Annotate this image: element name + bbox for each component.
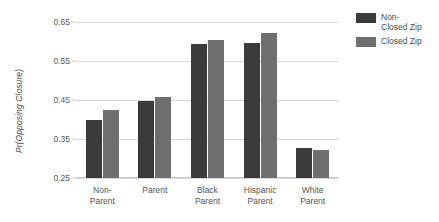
y-tick-label: 0.25 [53, 173, 70, 183]
y-tick-mark [72, 61, 76, 62]
legend-label: Closed Zip [381, 36, 422, 46]
bar [208, 40, 224, 178]
bar [138, 101, 154, 178]
bar [261, 33, 277, 178]
x-tick-label: Non- Parent [76, 185, 129, 207]
gridline [76, 178, 339, 179]
y-tick-mark [72, 22, 76, 23]
legend-item[interactable]: Non- Closed Zip [356, 12, 436, 32]
bar-group [191, 22, 224, 178]
y-tick-mark [72, 139, 76, 140]
plot-area: 0.250.350.450.550.65 Non- ParentParentBl… [76, 22, 339, 178]
chart-legend: Non- Closed ZipClosed Zip [356, 12, 436, 51]
y-tick-label: 0.35 [53, 134, 70, 144]
bar-chart-figure: Pr(Opposing Closure) 0.250.350.450.550.6… [0, 0, 439, 222]
bar-group [86, 22, 119, 178]
bar [244, 43, 260, 178]
legend-swatch-icon [356, 37, 376, 47]
bar [191, 44, 207, 178]
y-tick-label: 0.55 [53, 56, 70, 66]
bar-group [138, 22, 171, 178]
bar [296, 148, 312, 178]
x-tick-label: Hispanic Parent [234, 185, 287, 207]
x-tick-label: Black Parent [181, 185, 234, 207]
y-tick-mark [72, 100, 76, 101]
x-tick-label: White Parent [286, 185, 339, 207]
bar [103, 110, 119, 178]
y-tick-label: 0.45 [53, 95, 70, 105]
bar-group [296, 22, 329, 178]
bar-group [244, 22, 277, 178]
bar [313, 150, 329, 178]
legend-swatch-icon [356, 13, 376, 23]
x-tick-label: Parent [129, 185, 182, 196]
legend-item[interactable]: Closed Zip [356, 36, 436, 47]
legend-label: Non- Closed Zip [381, 12, 422, 32]
y-tick-label: 0.65 [53, 17, 70, 27]
bar [155, 97, 171, 178]
bar [86, 120, 102, 179]
y-axis-title: Pr(Opposing Closure) [14, 56, 24, 166]
